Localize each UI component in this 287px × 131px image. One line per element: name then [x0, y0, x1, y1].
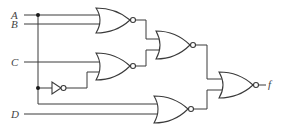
wire-g4-g5: [194, 90, 223, 109]
nor-gate-3-icon: [156, 31, 196, 59]
input-label-d: D: [10, 108, 19, 120]
nor-gate-5-icon: [219, 72, 259, 98]
nor-gate-2-icon: [96, 53, 136, 80]
nor-gate-1-icon: [96, 8, 136, 33]
nor-gate-4-icon: [154, 96, 194, 123]
wire-g1-g3: [136, 20, 161, 39]
wire-g3-g5: [196, 45, 223, 79]
wire-inv-out: [66, 72, 100, 88]
input-label-c: C: [11, 56, 19, 68]
not-gate-icon: [52, 82, 66, 94]
input-label-b: B: [11, 18, 18, 30]
output-label-f: f: [268, 78, 273, 90]
logic-circuit-diagram: A B C D f: [0, 0, 287, 131]
junction-dot-inv: [36, 86, 40, 90]
junction-dot-a: [36, 13, 40, 17]
